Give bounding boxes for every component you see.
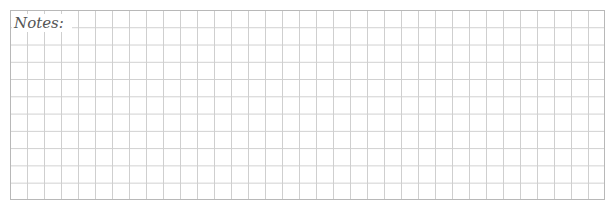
notes-label: Notes:	[12, 14, 72, 32]
notes-grid[interactable]	[10, 10, 605, 200]
